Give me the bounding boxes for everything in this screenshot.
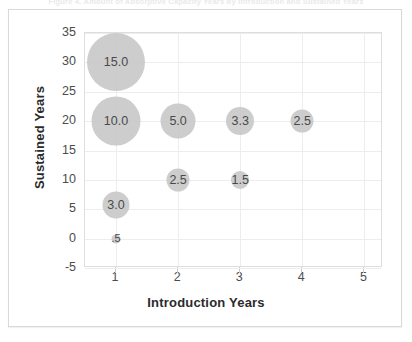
y-axis-tick-label: 10 <box>36 172 76 186</box>
figure-title: Figure 4. Amount of Absorptive Capacity … <box>0 0 412 6</box>
bubble-point: 2.5 <box>167 168 190 191</box>
bubble-value-label: 2.5 <box>169 174 186 187</box>
bubble-value-label: 15.0 <box>104 56 128 69</box>
bubble-value-label: 5.0 <box>169 115 186 128</box>
y-axis-tick-label: 0 <box>36 231 76 245</box>
y-axis-tick-label: 25 <box>36 84 76 98</box>
bubble-point: 2.5 <box>291 110 314 133</box>
y-axis-tick-label: 15 <box>36 143 76 157</box>
bubble-value-label: 2.5 <box>294 115 311 128</box>
y-axis-tick-label: 35 <box>36 25 76 39</box>
x-axis-title: Introduction Years <box>9 295 403 310</box>
chart-card: Sustained Years Introduction Years 35302… <box>8 9 402 327</box>
gridline-horizontal <box>85 33 381 34</box>
plot-area: 15.010.05.03.32.52.51.53.0.5 <box>84 32 382 267</box>
bubble-point: 10.0 <box>92 97 141 146</box>
gridline-horizontal <box>85 239 381 240</box>
gridline-vertical <box>302 33 303 266</box>
bubble-point: 3.0 <box>103 191 130 218</box>
bubble-point: 1.5 <box>231 171 249 189</box>
bubble-point: 3.3 <box>226 107 254 135</box>
y-axis-tick-label: 20 <box>36 113 76 127</box>
gridline-vertical <box>364 33 365 266</box>
bubble-value-label: .5 <box>111 233 120 244</box>
gridline-vertical <box>240 33 241 266</box>
gridline-horizontal <box>85 151 381 152</box>
bubble-value-label: 1.5 <box>232 174 249 187</box>
gridline-horizontal <box>85 268 381 269</box>
gridline-vertical <box>178 33 179 266</box>
bubble-value-label: 3.0 <box>107 198 124 211</box>
y-axis-tick-label: -5 <box>36 260 76 274</box>
bubble-value-label: 3.3 <box>232 115 249 128</box>
y-axis-tick-label: 5 <box>36 201 76 215</box>
bubble-point: 5.0 <box>161 104 196 139</box>
bubble-point: 15.0 <box>87 33 145 91</box>
y-axis-tick-label: 30 <box>36 54 76 68</box>
bubble-point: .5 <box>112 234 121 243</box>
bubble-value-label: 10.0 <box>104 115 128 128</box>
gridline-horizontal <box>85 209 381 210</box>
gridline-horizontal <box>85 92 381 93</box>
